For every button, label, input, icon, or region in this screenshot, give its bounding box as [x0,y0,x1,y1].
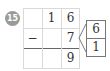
subtraction-grid: 1 6 − 7 9 [23,8,80,69]
problem-number-badge: 15 [5,11,20,26]
answer-cell[interactable] [23,48,42,68]
grid-cell[interactable] [42,28,61,48]
answer-cell[interactable] [42,48,61,68]
grid-cell[interactable] [23,8,42,28]
number-decomposition-box: 6 1 [86,20,106,57]
minus-sign-cell: − [23,28,42,48]
grid-line [23,68,80,69]
decomposition-part-bottom[interactable]: 1 [87,39,105,57]
decomposition-part-top[interactable]: 6 [87,21,105,39]
grid-cell[interactable]: 1 [42,8,61,28]
